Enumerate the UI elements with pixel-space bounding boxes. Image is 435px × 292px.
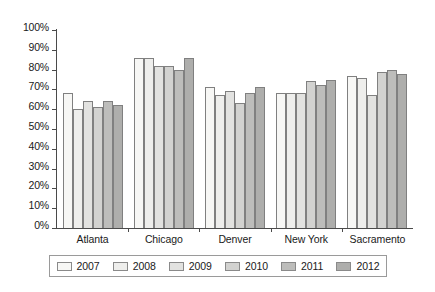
bar: [306, 81, 316, 228]
y-axis-tick-label: 60%: [29, 101, 49, 112]
legend-label: 2007: [77, 261, 100, 272]
bar: [286, 93, 296, 228]
legend-swatch-icon: [169, 262, 184, 271]
bar: [164, 66, 174, 228]
bar: [134, 58, 144, 228]
legend-item[interactable]: 2011: [281, 261, 323, 272]
legend-swatch-icon: [57, 262, 72, 271]
legend-item[interactable]: 2007: [57, 261, 100, 272]
bar-group-bars: [276, 30, 336, 228]
y-axis-tick-mark: [52, 70, 56, 71]
x-axis-category-label: Denver: [199, 233, 270, 246]
legend-item[interactable]: 2012: [336, 261, 379, 272]
y-axis-tick-mark: [52, 149, 56, 150]
x-axis-separator: [342, 228, 343, 232]
legend-swatch-icon: [281, 262, 296, 271]
y-axis-tick-label: 70%: [29, 81, 49, 92]
legend-swatch-icon: [225, 262, 240, 271]
y-axis-tick-mark: [52, 129, 56, 130]
x-axis-separator: [199, 228, 200, 232]
bar: [255, 87, 265, 228]
bar: [73, 109, 83, 228]
y-axis-tick-label: 30%: [29, 161, 49, 172]
x-axis-category-label: Sacramento: [342, 233, 413, 246]
y-axis-tick-label: 90%: [29, 42, 49, 53]
bar: [225, 91, 235, 228]
legend-label: 2009: [189, 261, 212, 272]
bar: [215, 95, 225, 228]
bar: [63, 93, 73, 228]
bar: [387, 70, 397, 228]
legend-label: 2008: [133, 261, 156, 272]
legend-item[interactable]: 2008: [113, 261, 156, 272]
y-axis-tick-mark: [52, 169, 56, 170]
x-axis-labels: AtlantaChicagoDenverNew YorkSacramento: [57, 233, 413, 246]
bar: [154, 66, 164, 228]
bar: [296, 93, 306, 228]
bar: [377, 72, 387, 228]
bar: [245, 93, 255, 228]
bar: [113, 105, 123, 228]
legend-swatch-icon: [336, 262, 351, 271]
bar: [174, 70, 184, 228]
y-axis-tick-label: 100%: [23, 22, 49, 33]
y-axis-tick-label: 10%: [29, 200, 49, 211]
y-axis-tick-mark: [52, 188, 56, 189]
bar: [205, 87, 215, 228]
bar-group-bars: [205, 30, 265, 228]
legend-item[interactable]: 2009: [169, 261, 212, 272]
x-axis-category-label: New York: [271, 233, 342, 246]
bar-group-bars: [347, 30, 407, 228]
x-axis-separator: [128, 228, 129, 232]
bar-group: [271, 30, 342, 228]
bar: [397, 74, 407, 228]
bar-group: [199, 30, 270, 228]
bar: [367, 95, 377, 228]
y-axis-tick-label: 0%: [34, 220, 49, 231]
y-axis-tick-label: 40%: [29, 141, 49, 152]
x-axis-separator: [271, 228, 272, 232]
bar-chart: 100%90%80%70%60%50%40%30%20%10%0% Atlant…: [0, 0, 435, 292]
y-axis-tick-label: 50%: [29, 121, 49, 132]
plot-area: [57, 30, 413, 228]
bar-group: [57, 30, 128, 228]
y-axis-tick-mark: [52, 228, 56, 229]
bar: [144, 58, 154, 228]
legend-label: 2012: [356, 261, 379, 272]
y-axis-tick-mark: [52, 50, 56, 51]
bar: [235, 103, 245, 228]
bar: [276, 93, 286, 228]
bar: [103, 101, 113, 228]
y-axis-tick-mark: [52, 109, 56, 110]
y-axis-tick-mark: [52, 89, 56, 90]
bar-group: [128, 30, 199, 228]
legend-label: 2010: [245, 261, 268, 272]
x-axis-category-label: Chicago: [128, 233, 199, 246]
bar: [347, 76, 357, 228]
y-axis-tick-mark: [52, 30, 56, 31]
bar: [357, 78, 367, 228]
chart-legend: 200720082009201020112012: [49, 255, 387, 277]
bar: [93, 107, 103, 228]
y-axis-tick-label: 20%: [29, 180, 49, 191]
bar: [83, 101, 93, 228]
x-axis-line: [56, 228, 413, 229]
legend-swatch-icon: [113, 262, 128, 271]
bar: [184, 58, 194, 228]
bar-group: [342, 30, 413, 228]
legend-label: 2011: [301, 261, 323, 272]
bar-group-bars: [63, 30, 123, 228]
x-axis-category-label: Atlanta: [57, 233, 128, 246]
legend-item[interactable]: 2010: [225, 261, 268, 272]
bar: [326, 80, 336, 229]
bar: [316, 85, 326, 228]
bar-group-bars: [134, 30, 194, 228]
y-axis-tick-label: 80%: [29, 62, 49, 73]
y-axis-tick-mark: [52, 208, 56, 209]
